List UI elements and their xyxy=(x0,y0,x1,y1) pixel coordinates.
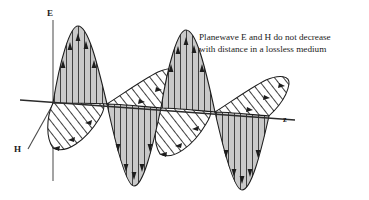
e-lobe xyxy=(212,110,272,196)
annotation-line-1: Planewave E and H do not decrease xyxy=(199,31,364,43)
axis-label-e: E xyxy=(47,8,53,18)
annotation-line-2: with distance in a lossless medium xyxy=(199,43,364,55)
e-lobe xyxy=(104,102,164,190)
annotation-text: Planewave E and H do not decrease with d… xyxy=(199,31,364,55)
axis-label-h: H xyxy=(14,144,21,154)
axis-label-z: z xyxy=(283,115,287,124)
figure-canvas: E H z Planewave E and H do not decrease … xyxy=(0,0,369,200)
e-lobe xyxy=(50,24,110,106)
planewave-diagram xyxy=(0,0,369,200)
